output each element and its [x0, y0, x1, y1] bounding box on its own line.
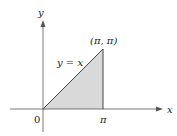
point-label: (π, π) — [90, 35, 117, 46]
line-label: y = x — [56, 57, 83, 68]
y-axis-arrow-icon — [41, 20, 46, 27]
x-axis-arrow-icon — [156, 107, 163, 112]
x-tick-pi-label: π — [99, 114, 107, 125]
y-axis-label: y — [37, 7, 44, 18]
origin-label: 0 — [34, 114, 40, 125]
x-axis-label: x — [167, 104, 173, 115]
diagram-canvas: y x 0 π (π, π) y = x — [0, 0, 177, 136]
